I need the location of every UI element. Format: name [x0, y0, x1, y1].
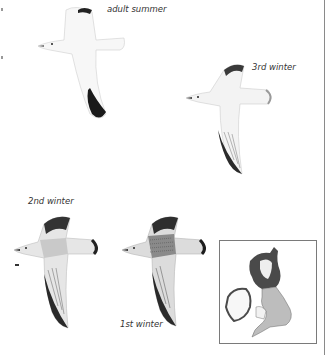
edge-mark [1, 56, 3, 59]
gull-3rd-winter-illustration [184, 60, 276, 178]
page-edge-rule [324, 0, 325, 355]
gull-adult-summer-illustration [34, 4, 126, 122]
edge-mark [1, 8, 3, 11]
british-isles-map-icon [220, 241, 316, 343]
distribution-map [219, 240, 317, 344]
label-2nd-winter: 2nd winter [28, 196, 74, 206]
gull-2nd-winter-illustration [12, 214, 102, 332]
gull-1st-winter-illustration [120, 214, 210, 332]
